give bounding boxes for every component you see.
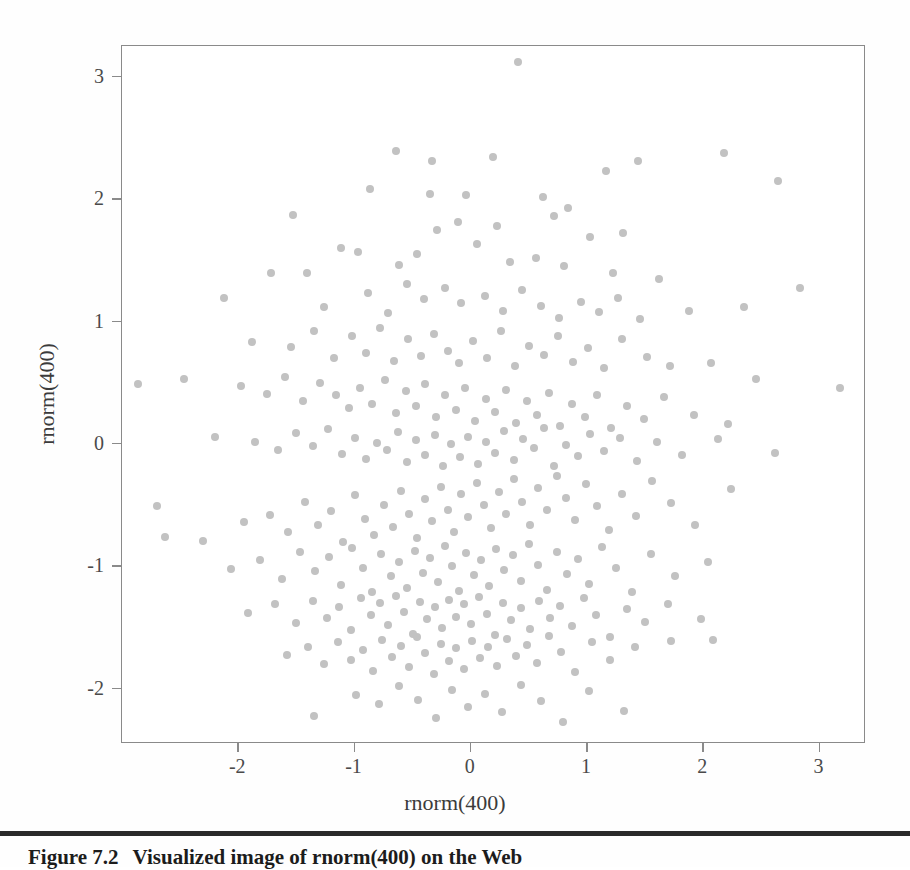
scatter-point — [325, 553, 333, 561]
scatter-point — [473, 479, 481, 487]
scatter-point — [545, 389, 553, 397]
scatter-point — [337, 244, 345, 252]
scatter-point — [314, 521, 322, 529]
scatter-point — [457, 299, 465, 307]
scatter-point — [460, 665, 468, 673]
scatter-point — [438, 624, 446, 632]
scatter-point — [352, 691, 360, 699]
scatter-point — [417, 352, 425, 360]
scatter-point — [345, 404, 353, 412]
scatter-point — [564, 204, 572, 212]
scatter-point — [563, 570, 571, 578]
scatter-point — [525, 342, 533, 350]
scatter-point — [581, 413, 589, 421]
scatter-point — [502, 386, 510, 394]
scatter-point — [457, 490, 465, 498]
scatter-point — [555, 314, 563, 322]
scatter-point — [452, 406, 460, 414]
scatter-point — [395, 682, 403, 690]
scatter-point — [618, 490, 626, 498]
scatter-point — [335, 603, 343, 611]
scatter-point — [492, 545, 500, 553]
scatter-point — [643, 353, 651, 361]
scatter-point — [395, 558, 403, 566]
scatter-point — [664, 600, 672, 608]
x-axis-tick — [354, 743, 356, 752]
scatter-point — [389, 523, 397, 531]
scatter-point — [227, 565, 235, 573]
plot-frame — [121, 45, 865, 743]
scatter-point — [404, 335, 412, 343]
scatter-point — [485, 582, 493, 590]
scatter-point — [678, 451, 686, 459]
scatter-point — [447, 440, 455, 448]
scatter-point — [199, 537, 207, 545]
scatter-point — [727, 485, 735, 493]
scatter-point — [428, 157, 436, 165]
y-axis-tick-label: -1 — [87, 554, 104, 577]
figure-caption: Figure 7.2Visualized image of rnorm(400)… — [28, 845, 888, 870]
scatter-point — [519, 435, 527, 443]
scatter-point — [421, 380, 429, 388]
scatter-point — [304, 643, 312, 651]
scatter-point — [491, 408, 499, 416]
scatter-point — [509, 551, 517, 559]
scatter-point — [420, 295, 428, 303]
scatter-point — [296, 548, 304, 556]
scatter-point — [271, 600, 279, 608]
scatter-point — [482, 395, 490, 403]
scatter-point — [368, 400, 376, 408]
scatter-point — [568, 622, 576, 630]
scatter-point — [498, 708, 506, 716]
scatter-point — [469, 337, 477, 345]
scatter-point — [533, 659, 541, 667]
scatter-point — [347, 656, 355, 664]
scatter-point — [493, 662, 501, 670]
scatter-point — [500, 427, 508, 435]
scatter-point — [648, 477, 656, 485]
scatter-point — [557, 648, 565, 656]
scatter-point — [600, 364, 608, 372]
scatter-point — [441, 391, 449, 399]
scatter-point — [771, 449, 779, 457]
scatter-point — [539, 193, 547, 201]
scatter-point — [292, 429, 300, 437]
scatter-point — [281, 373, 289, 381]
scatter-point — [339, 538, 347, 546]
scatter-point — [704, 558, 712, 566]
scatter-point — [402, 387, 410, 395]
scatter-point — [514, 58, 522, 66]
scatter-point — [471, 417, 479, 425]
scatter-point — [441, 284, 449, 292]
scatter-point — [476, 654, 484, 662]
scatter-point — [444, 506, 452, 514]
scatter-point — [493, 222, 501, 230]
scatter-point — [518, 498, 526, 506]
scatter-point — [623, 402, 631, 410]
scatter-point — [309, 442, 317, 450]
scatter-point — [562, 441, 570, 449]
scatter-point — [134, 380, 142, 388]
x-axis-label: rnorm(400) — [0, 790, 910, 816]
scatter-point — [441, 542, 449, 550]
scatter-point — [720, 149, 728, 157]
scatter-point — [641, 618, 649, 626]
scatter-point — [433, 226, 441, 234]
scatter-point — [403, 280, 411, 288]
scatter-point — [569, 358, 577, 366]
scatter-point — [412, 402, 420, 410]
scatter-point — [491, 631, 499, 639]
scatter-point — [653, 438, 661, 446]
scatter-point — [403, 584, 411, 592]
scatter-point — [595, 308, 603, 316]
scatter-point — [574, 555, 582, 563]
scatter-point — [348, 544, 356, 552]
scatter-point — [376, 599, 384, 607]
x-axis-tick-label: 1 — [581, 755, 591, 778]
scatter-point — [598, 543, 606, 551]
scatter-point — [618, 335, 626, 343]
caption-divider-rule — [0, 831, 910, 836]
scatter-point — [301, 498, 309, 506]
scatter-point — [359, 564, 367, 572]
